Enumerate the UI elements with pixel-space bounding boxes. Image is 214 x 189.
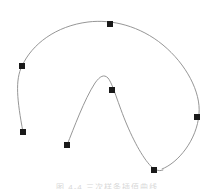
control-point-marker[interactable] <box>194 114 200 120</box>
control-point-marker[interactable] <box>64 142 70 148</box>
control-point-marker[interactable] <box>151 167 157 173</box>
control-point-marker[interactable] <box>109 87 115 93</box>
control-point-marker[interactable] <box>107 21 113 27</box>
control-point-marker[interactable] <box>20 129 26 135</box>
figure-container: 图 4-4 三次样条插值曲线 <box>0 0 214 189</box>
figure-caption: 图 4-4 三次样条插值曲线 <box>0 183 214 189</box>
figure-background <box>0 0 214 189</box>
spline-curve-canvas <box>0 0 214 189</box>
control-point-marker[interactable] <box>19 63 25 69</box>
